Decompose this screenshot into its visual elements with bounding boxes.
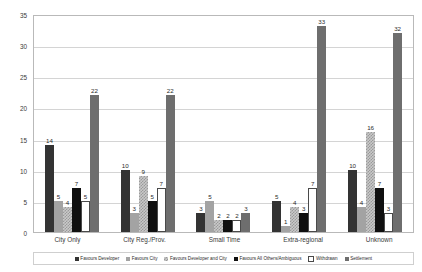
bar[interactable] bbox=[241, 213, 250, 232]
bar[interactable] bbox=[90, 95, 99, 232]
chart-legend: Favours DeveloperFavours CityFavours Dev… bbox=[33, 252, 414, 265]
legend-item[interactable]: Favours Developer and City bbox=[164, 256, 226, 261]
bars-layer: 14547522103957223522235143733104167332 bbox=[34, 16, 413, 232]
bar[interactable] bbox=[308, 188, 317, 232]
legend-item[interactable]: Settlement bbox=[345, 256, 372, 261]
bar-slot: 14 bbox=[45, 16, 54, 232]
bar-slot: 2 bbox=[223, 16, 232, 232]
bar-value-label: 33 bbox=[318, 18, 325, 25]
bar[interactable] bbox=[54, 201, 63, 232]
bar[interactable] bbox=[139, 176, 148, 232]
bar-value-label: 9 bbox=[141, 168, 144, 175]
bar[interactable] bbox=[223, 220, 232, 232]
legend-swatch-icon bbox=[164, 257, 168, 261]
bar-slot: 22 bbox=[166, 16, 175, 232]
bar[interactable] bbox=[232, 220, 241, 232]
bar-value-label: 3 bbox=[302, 205, 305, 212]
bar-slot: 4 bbox=[357, 16, 366, 232]
bar-slot: 3 bbox=[196, 16, 205, 232]
bar[interactable] bbox=[157, 188, 166, 232]
bar-slot: 9 bbox=[139, 16, 148, 232]
bar[interactable] bbox=[81, 201, 90, 232]
bar-slot: 10 bbox=[348, 16, 357, 232]
legend-label: Withdrawn bbox=[316, 256, 338, 261]
y-axis-tick-label: 10 bbox=[20, 167, 27, 174]
bar[interactable] bbox=[375, 188, 384, 232]
bar[interactable] bbox=[72, 188, 81, 232]
x-axis-tick-label: Unknown bbox=[366, 236, 393, 244]
bar[interactable] bbox=[317, 26, 326, 232]
bar-slot: 3 bbox=[384, 16, 393, 232]
y-axis-tick-label: 5 bbox=[23, 198, 27, 205]
bar[interactable] bbox=[121, 170, 130, 232]
y-axis-tick-label: 20 bbox=[20, 105, 27, 112]
bar-slot: 3 bbox=[241, 16, 250, 232]
legend-item[interactable]: Favours All Others/Ambiguous bbox=[234, 256, 302, 261]
x-axis-tick-label: Small Time bbox=[209, 236, 241, 244]
bar-value-label: 3 bbox=[244, 205, 247, 212]
bar[interactable] bbox=[214, 220, 223, 232]
bar[interactable] bbox=[290, 207, 299, 232]
bar-value-label: 2 bbox=[235, 212, 238, 219]
bar-value-label: 4 bbox=[360, 199, 363, 206]
bar[interactable] bbox=[281, 226, 290, 232]
bar[interactable] bbox=[272, 201, 281, 232]
bar-chart: 05101520253035 1454752210395722352223514… bbox=[0, 0, 422, 272]
bar-value-label: 5 bbox=[208, 193, 211, 200]
bar[interactable] bbox=[45, 145, 54, 232]
bar-group: 14547522 bbox=[45, 16, 99, 232]
bar-value-label: 3 bbox=[132, 205, 135, 212]
y-axis-tick-label: 25 bbox=[20, 74, 27, 81]
bar-slot: 3 bbox=[299, 16, 308, 232]
bar-slot: 16 bbox=[366, 16, 375, 232]
bar[interactable] bbox=[205, 201, 214, 232]
bar-value-label: 5 bbox=[275, 193, 278, 200]
legend-swatch-icon bbox=[308, 256, 314, 262]
bar-group: 104167332 bbox=[348, 16, 402, 232]
bar-slot: 5 bbox=[81, 16, 90, 232]
bar[interactable] bbox=[348, 170, 357, 232]
legend-item[interactable]: Favours City bbox=[126, 256, 157, 261]
bar-value-label: 7 bbox=[378, 180, 381, 187]
bar[interactable] bbox=[166, 95, 175, 232]
bar-slot: 4 bbox=[63, 16, 72, 232]
bar[interactable] bbox=[393, 33, 402, 232]
plot-area: 14547522103957223522235143733104167332 bbox=[33, 15, 414, 233]
bar-value-label: 5 bbox=[150, 193, 153, 200]
bar-slot: 10 bbox=[121, 16, 130, 232]
bar-value-label: 4 bbox=[293, 199, 296, 206]
bar-value-label: 14 bbox=[46, 137, 53, 144]
legend-label: Favours City bbox=[132, 256, 158, 261]
bar-slot: 7 bbox=[375, 16, 384, 232]
bar-value-label: 7 bbox=[75, 180, 78, 187]
bar[interactable] bbox=[130, 213, 139, 232]
bar-value-label: 10 bbox=[122, 162, 129, 169]
bar-value-label: 2 bbox=[226, 212, 229, 219]
legend-swatch-icon bbox=[234, 257, 238, 261]
bar-value-label: 5 bbox=[57, 193, 60, 200]
bar[interactable] bbox=[63, 207, 72, 232]
bar-value-label: 3 bbox=[199, 205, 202, 212]
bar-group: 5143733 bbox=[272, 16, 326, 232]
bar[interactable] bbox=[196, 213, 205, 232]
bar-slot: 22 bbox=[90, 16, 99, 232]
bar-value-label: 22 bbox=[91, 87, 98, 94]
bar[interactable] bbox=[366, 132, 375, 232]
legend-item[interactable]: Favours Developer bbox=[75, 256, 119, 261]
legend-label: Favours Developer bbox=[80, 256, 119, 261]
bar-slot: 5 bbox=[272, 16, 281, 232]
legend-item[interactable]: Withdrawn bbox=[308, 256, 337, 262]
bar-value-label: 1 bbox=[284, 218, 287, 225]
bar[interactable] bbox=[357, 207, 366, 232]
y-axis-tick-label: 15 bbox=[20, 136, 27, 143]
bar[interactable] bbox=[384, 213, 393, 232]
bar-slot: 33 bbox=[317, 16, 326, 232]
bar-slot: 32 bbox=[393, 16, 402, 232]
legend-label: Favours All Others/Ambiguous bbox=[239, 256, 301, 261]
bar-slot: 3 bbox=[130, 16, 139, 232]
y-axis: 05101520253035 bbox=[0, 15, 30, 233]
bar[interactable] bbox=[148, 201, 157, 232]
bar-slot: 4 bbox=[290, 16, 299, 232]
bar[interactable] bbox=[299, 213, 308, 232]
legend-swatch-icon bbox=[75, 257, 79, 261]
